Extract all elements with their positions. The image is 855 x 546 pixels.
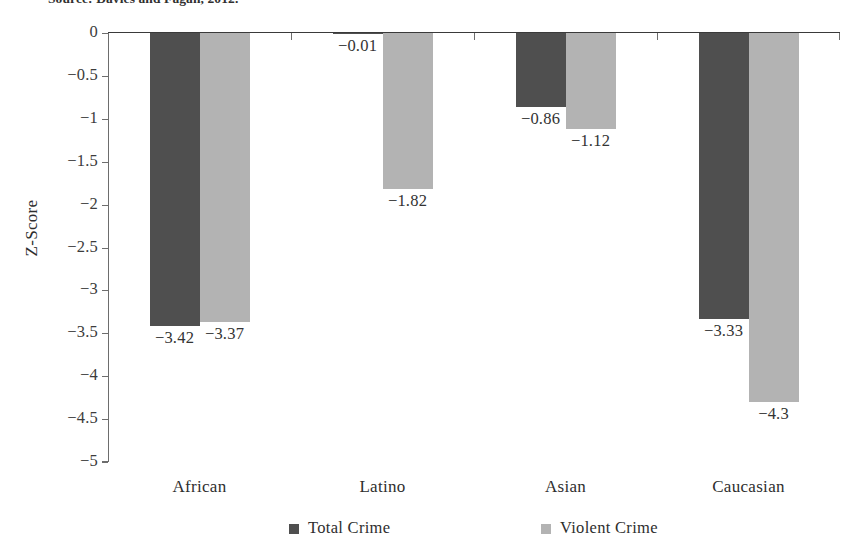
x-category-label-latino: Latino xyxy=(303,477,463,497)
y-tick-label: −3 xyxy=(36,279,98,299)
x-axis-right-cap xyxy=(839,33,840,40)
x-tick-mark xyxy=(291,33,292,40)
y-tick-mark xyxy=(102,462,108,463)
y-tick-label: −2.5 xyxy=(36,237,98,257)
y-tick-mark xyxy=(102,248,108,249)
y-tick-label: −5 xyxy=(36,451,98,471)
bar-value-label: −4.3 xyxy=(738,404,810,424)
y-tick-label: −4 xyxy=(36,365,98,385)
legend-item-total[interactable]: Total Crime xyxy=(289,518,390,538)
x-category-label-asian: Asian xyxy=(486,477,646,497)
bar-asian-violent xyxy=(566,33,616,129)
legend-swatch-icon xyxy=(541,524,551,534)
bar-value-label: −1.12 xyxy=(555,131,627,151)
y-axis-title: Z-Score xyxy=(22,168,42,288)
bar-latino-violent xyxy=(383,33,433,189)
bar-chart: Z-Score 0−0.5−1−1.5−2−2.5−3−3.5−4−4.5−5 … xyxy=(0,0,855,546)
bar-asian-total xyxy=(516,33,566,107)
y-tick-label: −4.5 xyxy=(36,408,98,428)
y-tick-mark xyxy=(102,290,108,291)
bar-african-total xyxy=(150,33,200,326)
x-tick-mark xyxy=(474,33,475,40)
y-tick-label: −1 xyxy=(36,108,98,128)
y-tick-mark xyxy=(102,376,108,377)
legend-label: Total Crime xyxy=(308,518,390,538)
y-tick-mark xyxy=(102,333,108,334)
bar-african-violent xyxy=(200,33,250,322)
x-tick-mark xyxy=(657,33,658,40)
y-tick-label: 0 xyxy=(36,22,98,42)
bar-value-label: −3.37 xyxy=(189,324,261,344)
legend-swatch-icon xyxy=(289,524,299,534)
chart-legend: Total CrimeViolent Crime xyxy=(0,518,855,542)
y-tick-mark xyxy=(102,119,108,120)
x-category-label-caucasian: Caucasian xyxy=(669,477,829,497)
y-tick-label: −1.5 xyxy=(36,151,98,171)
y-tick-mark xyxy=(102,205,108,206)
y-tick-mark xyxy=(102,76,108,77)
y-tick-mark xyxy=(102,33,108,34)
y-tick-mark xyxy=(102,419,108,420)
bar-value-label: −1.82 xyxy=(372,191,444,211)
y-tick-label: −3.5 xyxy=(36,322,98,342)
y-axis-line xyxy=(108,33,109,462)
bar-caucasian-total xyxy=(699,33,749,319)
bar-caucasian-violent xyxy=(749,33,799,402)
y-tick-mark xyxy=(102,162,108,163)
legend-label: Violent Crime xyxy=(560,518,658,538)
bar-latino-total xyxy=(333,33,383,34)
legend-item-violent[interactable]: Violent Crime xyxy=(541,518,658,538)
y-tick-label: −0.5 xyxy=(36,65,98,85)
y-tick-label: −2 xyxy=(36,194,98,214)
x-category-label-african: African xyxy=(120,477,280,497)
